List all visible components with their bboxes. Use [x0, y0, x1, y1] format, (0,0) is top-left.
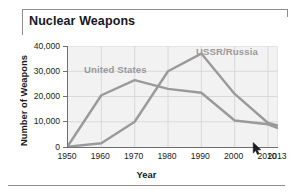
x-axis-title: Year — [0, 169, 293, 180]
series-label-ussr-russia: USSR/Russia — [196, 46, 258, 57]
plot-area — [67, 46, 278, 148]
mouse-pointer-arrow-icon — [252, 142, 262, 156]
x-tick-label: 1960 — [85, 151, 115, 161]
y-tick-label: 10,000 — [18, 116, 60, 126]
y-tick-label: 20,000 — [18, 91, 60, 101]
bottom-divider — [8, 185, 285, 186]
y-tick-label: 30,000 — [18, 66, 60, 76]
chart-figure: Nuclear Weapons Number of Weapons Year 4… — [0, 0, 293, 192]
chart-title: Nuclear Weapons — [29, 14, 135, 28]
x-tick-label: 1970 — [119, 151, 149, 161]
series-label-united-states: United States — [84, 64, 147, 75]
x-tick-label: 1980 — [152, 151, 182, 161]
x-tick-label: 2013 — [262, 151, 292, 161]
y-tick-label: 0 — [18, 142, 60, 152]
y-tick-label: 40,000 — [18, 41, 60, 51]
series-line-united-states — [68, 80, 278, 146]
x-tick-label: 1990 — [185, 151, 215, 161]
plot-svg — [68, 46, 278, 147]
x-tick-label: 1950 — [52, 151, 82, 161]
x-tick-label: 2000 — [219, 151, 249, 161]
